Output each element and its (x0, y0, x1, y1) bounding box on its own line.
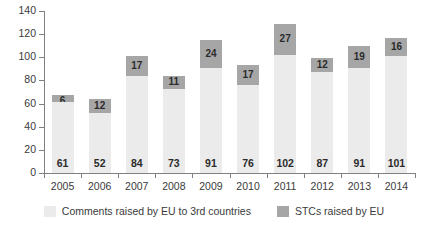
x-axis-tick-label: 2008 (155, 180, 192, 192)
bar-segment-stcs[interactable]: 12 (89, 99, 111, 113)
x-axis-tick (155, 173, 156, 178)
bar-label-stcs: 12 (89, 101, 111, 111)
bar-label-stcs: 11 (163, 77, 185, 87)
bar-group[interactable]: 2491 (200, 40, 222, 173)
bar-group[interactable]: 16101 (385, 38, 407, 173)
x-axis-tick-label: 2009 (192, 180, 229, 192)
x-axis-tick-label: 2013 (341, 180, 378, 192)
y-axis-tick (39, 104, 44, 105)
y-axis-tick-label: 120 (2, 27, 36, 39)
legend-swatch-stcs (277, 206, 289, 217)
x-axis-tick (415, 173, 416, 178)
bar-label-comments: 101 (385, 157, 407, 169)
y-axis-tick (39, 80, 44, 81)
bar-segment-stcs[interactable]: 27 (274, 24, 296, 55)
bar-label-comments: 73 (163, 157, 185, 169)
bar-group[interactable]: 661 (52, 95, 74, 173)
stacked-bar-chart: 020406080100120140 200520062007200820092… (0, 0, 428, 229)
y-axis-line (44, 11, 45, 173)
bar-group[interactable]: 1784 (126, 56, 148, 173)
bar-label-stcs: 16 (385, 42, 407, 52)
bar-segment-stcs[interactable]: 24 (200, 40, 222, 68)
legend-swatch-comments (44, 206, 56, 217)
x-axis-tick (341, 173, 342, 178)
bar-label-stcs: 27 (274, 34, 296, 44)
x-axis-tick-label: 2007 (118, 180, 155, 192)
bar-label-stcs: 24 (200, 49, 222, 59)
y-axis-tick-label: 0 (2, 166, 36, 178)
bar-group[interactable]: 1776 (237, 65, 259, 173)
bar-label-stcs: 17 (126, 61, 148, 71)
bar-label-comments: 91 (348, 157, 370, 169)
legend-label-comments: Comments raised by EU to 3rd countries (62, 205, 251, 217)
bar-group[interactable]: 27102 (274, 24, 296, 173)
bar-label-stcs: 17 (237, 70, 259, 80)
y-axis-tick (39, 34, 44, 35)
legend-item-comments: Comments raised by EU to 3rd countries (44, 205, 251, 217)
bar-label-stcs: 19 (348, 52, 370, 62)
bar-segment-stcs[interactable]: 17 (126, 56, 148, 76)
x-axis-tick (118, 173, 119, 178)
bar-segment-stcs[interactable]: 6 (52, 95, 74, 102)
bar-label-comments: 61 (52, 157, 74, 169)
y-axis-tick-label: 40 (2, 120, 36, 132)
bar-label-comments: 102 (274, 157, 296, 169)
bar-group[interactable]: 1252 (89, 99, 111, 173)
x-axis-tick (378, 173, 379, 178)
bar-segment-stcs[interactable]: 17 (237, 65, 259, 85)
x-axis-tick (230, 173, 231, 178)
bar-segment-stcs[interactable]: 16 (385, 38, 407, 57)
x-axis-tick-label: 2014 (378, 180, 415, 192)
y-axis-tick (39, 11, 44, 12)
bar-label-comments: 91 (200, 157, 222, 169)
x-axis-tick (44, 173, 45, 178)
bar-segment-comments[interactable] (385, 56, 407, 173)
x-axis-tick-label: 2012 (304, 180, 341, 192)
legend-label-stcs: STCs raised by EU (295, 205, 384, 217)
bar-label-stcs: 12 (311, 60, 333, 70)
y-axis-tick (39, 57, 44, 58)
bar-group[interactable]: 1173 (163, 76, 185, 173)
y-axis-tick (39, 150, 44, 151)
bar-label-comments: 87 (311, 157, 333, 169)
bar-segment-stcs[interactable]: 11 (163, 76, 185, 89)
y-axis-tick-label: 100 (2, 50, 36, 62)
y-axis-tick-label: 20 (2, 143, 36, 155)
x-axis-tick (81, 173, 82, 178)
bar-group[interactable]: 1991 (348, 46, 370, 173)
x-axis-tick (267, 173, 268, 178)
x-axis-tick-label: 2006 (81, 180, 118, 192)
bar-label-comments: 76 (237, 157, 259, 169)
bar-label-comments: 52 (89, 157, 111, 169)
bar-segment-comments[interactable] (274, 55, 296, 173)
x-axis-tick-label: 2011 (267, 180, 304, 192)
x-axis-tick (192, 173, 193, 178)
y-axis-tick-label: 80 (2, 73, 36, 85)
chart-legend: Comments raised by EU to 3rd countries S… (0, 205, 428, 217)
x-axis-tick-label: 2010 (230, 180, 267, 192)
bar-segment-stcs[interactable]: 19 (348, 46, 370, 68)
bar-group[interactable]: 1287 (311, 58, 333, 173)
legend-item-stcs: STCs raised by EU (277, 205, 384, 217)
x-axis-tick (304, 173, 305, 178)
bar-label-comments: 84 (126, 157, 148, 169)
bar-segment-stcs[interactable]: 12 (311, 58, 333, 72)
x-axis-tick-label: 2005 (44, 180, 81, 192)
y-axis-tick (39, 127, 44, 128)
y-axis-tick-label: 140 (2, 4, 36, 16)
y-axis-tick-label: 60 (2, 97, 36, 109)
